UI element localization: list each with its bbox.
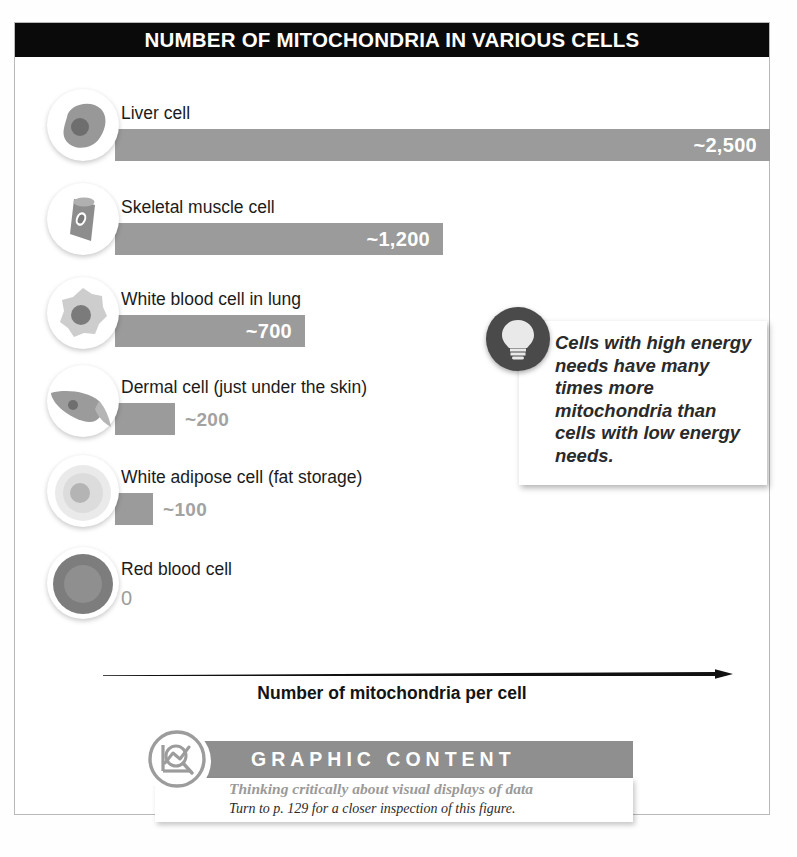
bar-value: ~1,200	[366, 228, 443, 251]
row-label: White adipose cell (fat storage)	[121, 467, 362, 488]
callout-text: Cells with high energy needs have many t…	[555, 332, 760, 467]
bar-liver-cell: ~2,500	[115, 129, 770, 161]
figure-panel: NUMBER OF MITOCHONDRIA IN VARIOUS CELLS …	[14, 22, 770, 815]
dermal-cell-icon	[47, 365, 119, 437]
footer-note: Turn to p. 129 for a closer inspection o…	[229, 801, 516, 817]
row-label: Dermal cell (just under the skin)	[121, 377, 367, 398]
table-row: Red blood cell 0	[15, 535, 769, 627]
bar-skeletal-muscle-cell: ~1,200	[115, 223, 443, 255]
bar-value: ~200	[185, 409, 229, 431]
white-blood-cell-icon	[47, 277, 119, 349]
footer-title-bar: GRAPHIC CONTENT	[155, 741, 633, 778]
row-label: Red blood cell	[121, 559, 232, 580]
bar-value: 0	[121, 587, 132, 610]
footer-subtitle: Thinking critically about visual display…	[229, 780, 533, 798]
x-axis-arrow	[103, 668, 733, 680]
chart-magnifier-icon	[143, 727, 211, 795]
graphic-content-footer: GRAPHIC CONTENT Thinking critically abou…	[133, 723, 633, 815]
red-blood-cell-icon	[47, 547, 119, 619]
bar-value: ~100	[163, 499, 207, 521]
page-title: NUMBER OF MITOCHONDRIA IN VARIOUS CELLS	[145, 28, 640, 52]
liver-cell-icon	[47, 89, 119, 161]
white-adipose-cell-icon	[47, 455, 119, 527]
skeletal-muscle-cell-icon	[47, 183, 119, 255]
bar-value: ~700	[246, 320, 305, 343]
lightbulb-icon	[486, 307, 550, 371]
bar-white-adipose-cell	[115, 493, 153, 525]
bar-value: ~2,500	[693, 134, 770, 157]
row-label: Skeletal muscle cell	[121, 197, 275, 218]
bar-dermal-cell	[115, 403, 175, 435]
row-label: Liver cell	[121, 103, 190, 124]
insight-callout: Cells with high energy needs have many t…	[519, 321, 767, 485]
bar-white-blood-cell: ~700	[115, 315, 305, 347]
table-row: Liver cell ~2,500	[15, 81, 769, 173]
table-row: Skeletal muscle cell ~1,200	[15, 175, 769, 267]
axis-label: Number of mitochondria per cell	[15, 683, 769, 704]
row-label: White blood cell in lung	[121, 289, 301, 310]
figure-title-bar: NUMBER OF MITOCHONDRIA IN VARIOUS CELLS	[15, 23, 769, 57]
